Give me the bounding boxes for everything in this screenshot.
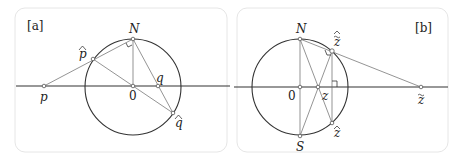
n-to-ztilde-line — [300, 39, 421, 87]
point-z — [316, 85, 320, 89]
label-n: N — [128, 22, 140, 36]
point-s — [298, 134, 302, 138]
stereographic-diagrams: [a] N 0 p p q q [b] — [0, 0, 461, 160]
p-to-n-line — [44, 39, 133, 86]
point-n — [131, 37, 135, 41]
point-z-tilde — [419, 85, 423, 89]
label-n: N — [295, 22, 307, 36]
point-n — [298, 37, 302, 41]
panel-a: [a] N 0 p p q q — [15, 8, 230, 152]
point-p — [42, 84, 46, 88]
n-to-zhat-bottom-line — [300, 39, 332, 123]
label-o: 0 — [288, 89, 296, 103]
point-o — [298, 85, 302, 89]
hat-mark-top — [334, 31, 340, 34]
label-o: 0 — [129, 89, 137, 103]
right-angle-mark-axis — [332, 81, 337, 87]
label-s: S — [296, 140, 304, 154]
point-z-hat-bottom — [330, 121, 334, 125]
point-q-hat — [171, 111, 175, 115]
label-p: p — [40, 90, 48, 104]
point-p-hat — [91, 57, 95, 61]
label-z-hat-bottom: z — [333, 126, 341, 140]
n-to-qhat-line — [133, 39, 173, 113]
panel-b: [b] N S 0 z z z z — [234, 8, 448, 154]
panel-a-frame — [15, 8, 227, 152]
label-q: q — [156, 71, 164, 85]
point-z-hat-top — [330, 49, 334, 53]
point-o — [131, 84, 135, 88]
panel-b-tag: [b] — [415, 21, 432, 35]
right-angle-mark — [126, 43, 132, 47]
label-z: z — [321, 89, 329, 103]
panel-a-tag: [a] — [27, 19, 44, 33]
